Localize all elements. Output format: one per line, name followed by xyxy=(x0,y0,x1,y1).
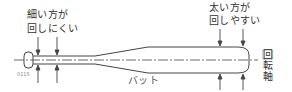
rotation-axis-label: 回 転 軸 xyxy=(262,49,273,82)
axis-char-1: 回 xyxy=(262,49,273,60)
thick-side-arrows xyxy=(218,29,245,90)
thin-side-label-line1: 細い方が xyxy=(27,9,68,21)
figure-id: 0115 xyxy=(17,71,30,77)
thin-side-label-line2: 回しにくい xyxy=(27,23,79,35)
bat-rotation-diagram: 細い方が 回しにくい 太い方が 回しやすい バット 0115 回 転 軸 xyxy=(0,0,292,92)
thick-side-label-line2: 回しやすい xyxy=(209,15,261,27)
axis-char-3: 軸 xyxy=(262,71,273,82)
axis-char-2: 転 xyxy=(262,60,273,71)
bat-label: バット xyxy=(128,75,159,87)
thick-side-label-line1: 太い方が xyxy=(209,2,250,14)
